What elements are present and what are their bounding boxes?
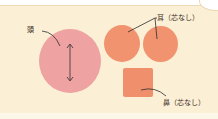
ears-label: 耳（芯なし） [157, 14, 199, 22]
double-arrow-icon [67, 44, 73, 81]
ear-leader-line [128, 18, 157, 39]
nose-label: 鼻（芯なし） [163, 99, 205, 107]
head-label: 頭 [27, 26, 34, 34]
head-leader-line [42, 31, 60, 46]
nose-leader-line [141, 89, 166, 96]
diagram-panel: 頭 耳（芯なし） 鼻（芯なし） [0, 0, 218, 119]
